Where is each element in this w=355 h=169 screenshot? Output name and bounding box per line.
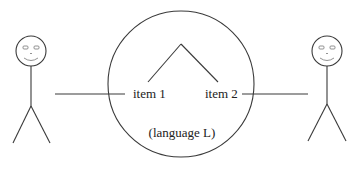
left-person-icon [13, 36, 50, 143]
right-person-icon [308, 36, 346, 141]
left-person-face [23, 46, 39, 61]
right-person-left-leg [308, 104, 327, 141]
syntax-tree [148, 44, 218, 82]
right-person-head [312, 36, 342, 66]
right-person-face [319, 46, 335, 61]
left-person-head [16, 36, 46, 66]
tree-branch-left [148, 44, 181, 82]
right-person-right-leg [327, 104, 346, 141]
left-person-right-leg [31, 106, 50, 143]
item-2-label: item 2 [205, 86, 238, 101]
communication-diagram: item 1 item 2 (language L) [0, 0, 355, 169]
item-1-label: item 1 [133, 86, 166, 101]
tree-branch-right [181, 44, 218, 82]
left-person-left-leg [13, 106, 31, 143]
language-label: (language L) [149, 125, 216, 140]
